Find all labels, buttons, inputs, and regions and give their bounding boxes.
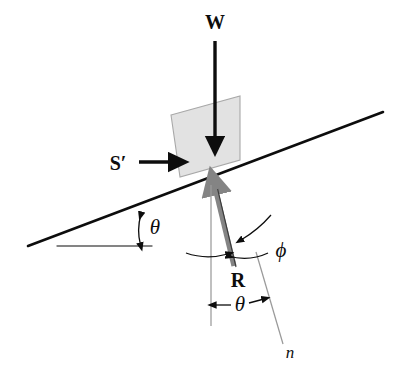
reaction-label: R: [231, 269, 246, 291]
inclined-plane-free-body-diagram: W S′ R n θ ϕ θ: [0, 0, 403, 377]
normal-angle-label: θ: [235, 292, 245, 316]
block-shape: [171, 96, 240, 177]
normal-label: n: [286, 343, 295, 362]
applied-force-label: S′: [110, 152, 127, 174]
friction-angle-arc-upper: [241, 215, 271, 240]
physics-diagram: W S′ R n θ ϕ θ: [0, 0, 403, 377]
friction-angle-label: ϕ: [276, 238, 287, 262]
normal-direction-line: [256, 252, 283, 344]
weight-label: W: [205, 11, 225, 33]
incline-angle-arc: [139, 214, 141, 245]
reaction-angle-arc: [186, 253, 228, 257]
incline-angle-label: θ: [150, 215, 160, 239]
normal-angle-arrow-right: [249, 299, 264, 303]
